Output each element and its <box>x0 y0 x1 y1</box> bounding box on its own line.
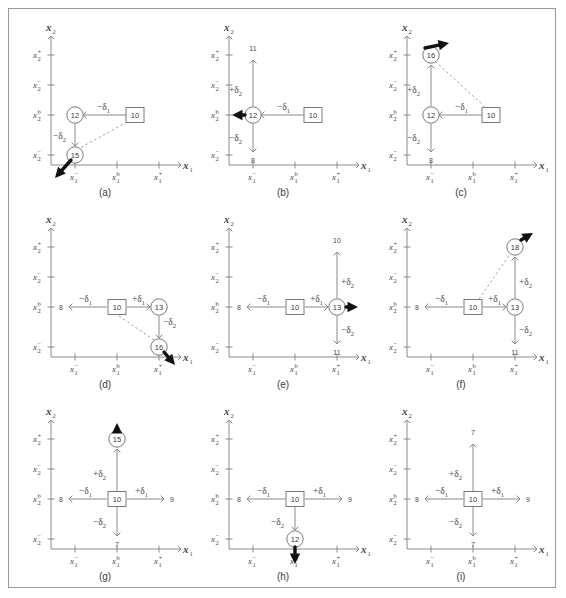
svg-text:2: 2 <box>231 28 234 35</box>
svg-text:2: 2 <box>63 136 66 143</box>
svg-text:1: 1 <box>253 177 256 184</box>
svg-text:1: 1 <box>465 107 468 114</box>
svg-text:−: − <box>216 532 220 539</box>
svg-text:−: − <box>216 148 220 155</box>
svg-text:2: 2 <box>351 282 354 289</box>
svg-text:1: 1 <box>337 369 340 376</box>
axes: x1x2x1−x1bx1+x2+x2−x2bx2− <box>210 21 371 184</box>
svg-text:2: 2 <box>53 220 56 227</box>
svg-text:x: x <box>153 364 158 374</box>
end-value-left: 8 <box>237 304 241 311</box>
svg-text:1: 1 <box>515 369 518 376</box>
svg-text:1: 1 <box>117 369 120 376</box>
svg-text:x: x <box>210 464 215 474</box>
x-axis-label: x1 <box>182 351 193 365</box>
svg-text:x: x <box>388 494 393 504</box>
y-tick-3: x2− <box>32 340 42 354</box>
svg-text:x: x <box>223 213 230 225</box>
label-minus-d1: −δ1 <box>79 294 92 306</box>
svg-text:x: x <box>210 242 215 252</box>
svg-text:−δ: −δ <box>519 325 529 335</box>
svg-text:1: 1 <box>253 369 256 376</box>
svg-text:−: − <box>216 78 220 85</box>
panel-content-c: 10−δ112+δ2−δ2816 <box>407 40 500 164</box>
svg-text:−δ: −δ <box>455 102 465 112</box>
svg-text:x: x <box>509 556 514 566</box>
svg-text:2: 2 <box>53 28 56 35</box>
svg-text:+: + <box>515 554 519 561</box>
svg-text:2: 2 <box>231 412 234 419</box>
end-value-bottom: 11 <box>511 349 518 356</box>
svg-text:2: 2 <box>409 412 412 419</box>
y-tick-1: x2− <box>32 78 42 92</box>
svg-text:x: x <box>289 364 294 374</box>
svg-text:2: 2 <box>216 469 219 476</box>
svg-text:2: 2 <box>216 115 219 122</box>
svg-text:x: x <box>425 364 430 374</box>
svg-text:2: 2 <box>173 322 176 329</box>
y-axis-label: x2 <box>401 213 412 227</box>
svg-text:1: 1 <box>75 561 78 568</box>
node-circle-13: 13 <box>329 299 345 315</box>
svg-text:+: + <box>38 240 42 247</box>
svg-text:2: 2 <box>216 347 219 354</box>
svg-text:2: 2 <box>216 85 219 92</box>
svg-text:13: 13 <box>155 303 163 312</box>
svg-text:−: − <box>38 148 42 155</box>
panel-content-i: 10−δ18+δ19+δ2−δ277 <box>415 429 530 548</box>
svg-text:x: x <box>32 342 37 352</box>
svg-text:−δ: −δ <box>341 325 351 335</box>
svg-text:+: + <box>515 170 519 177</box>
y-tick-3: x2− <box>32 148 42 162</box>
svg-text:x: x <box>45 213 52 225</box>
svg-text:1: 1 <box>159 561 162 568</box>
svg-text:1: 1 <box>159 177 162 184</box>
svg-text:2: 2 <box>103 474 106 481</box>
end-value-left: 8 <box>237 496 241 503</box>
x-axis-label: x1 <box>360 159 371 173</box>
panel-f: x1x2x1−x1bx1+x2+x2−x2bx2−10−δ18+δ113+δ2−… <box>373 207 549 397</box>
label-minus-d1: −δ1 <box>435 294 448 306</box>
svg-text:x: x <box>210 50 215 60</box>
svg-text:x: x <box>210 150 215 160</box>
svg-text:1: 1 <box>190 550 193 557</box>
svg-text:2: 2 <box>38 307 41 314</box>
svg-text:2: 2 <box>394 439 397 446</box>
svg-text:b: b <box>216 108 219 115</box>
label-plus-d2: +δ2 <box>341 277 354 289</box>
x-axis-label: x1 <box>538 351 549 365</box>
svg-text:x: x <box>210 80 215 90</box>
svg-text:1: 1 <box>337 177 340 184</box>
svg-text:1: 1 <box>267 491 270 498</box>
node-circle-13: 13 <box>507 299 523 315</box>
svg-text:−: − <box>253 362 257 369</box>
svg-text:2: 2 <box>394 347 397 354</box>
svg-text:1: 1 <box>431 369 434 376</box>
panel-d: x1x2x1−x1bx1+x2+x2−x2bx2−10−δ18+δ113−δ21… <box>17 207 193 397</box>
bold-arrow-down-left <box>55 160 71 178</box>
svg-text:2: 2 <box>216 539 219 546</box>
y-tick-1: x2− <box>388 270 398 284</box>
svg-text:2: 2 <box>529 282 532 289</box>
panel-c: x1x2x1−x1bx1+x2+x2−x2bx2−10−δ112+δ2−δ281… <box>373 15 549 205</box>
svg-text:+: + <box>159 362 163 369</box>
y-tick-3: x2− <box>210 148 220 162</box>
node-circle-13: 13 <box>151 299 167 315</box>
label-plus-d1: +δ1 <box>132 294 145 306</box>
svg-text:1: 1 <box>368 358 371 365</box>
svg-text:b: b <box>473 554 476 561</box>
svg-text:x: x <box>331 364 336 374</box>
svg-text:2: 2 <box>38 439 41 446</box>
panel-h: x1x2x1−x1bx1+x2+x2−x2bx2−10−δ18+δ19−δ212… <box>195 399 371 589</box>
label-plus-d2: +δ2 <box>407 85 420 97</box>
svg-text:1: 1 <box>320 299 323 306</box>
svg-text:10: 10 <box>131 111 139 120</box>
svg-text:+δ: +δ <box>341 277 351 287</box>
svg-text:x: x <box>111 556 116 566</box>
x-tick-0: x1− <box>247 170 257 184</box>
svg-text:2: 2 <box>394 307 397 314</box>
svg-text:b: b <box>38 300 41 307</box>
node-root-square: 10 <box>108 492 126 507</box>
svg-text:−δ: −δ <box>277 102 287 112</box>
svg-text:x: x <box>210 342 215 352</box>
